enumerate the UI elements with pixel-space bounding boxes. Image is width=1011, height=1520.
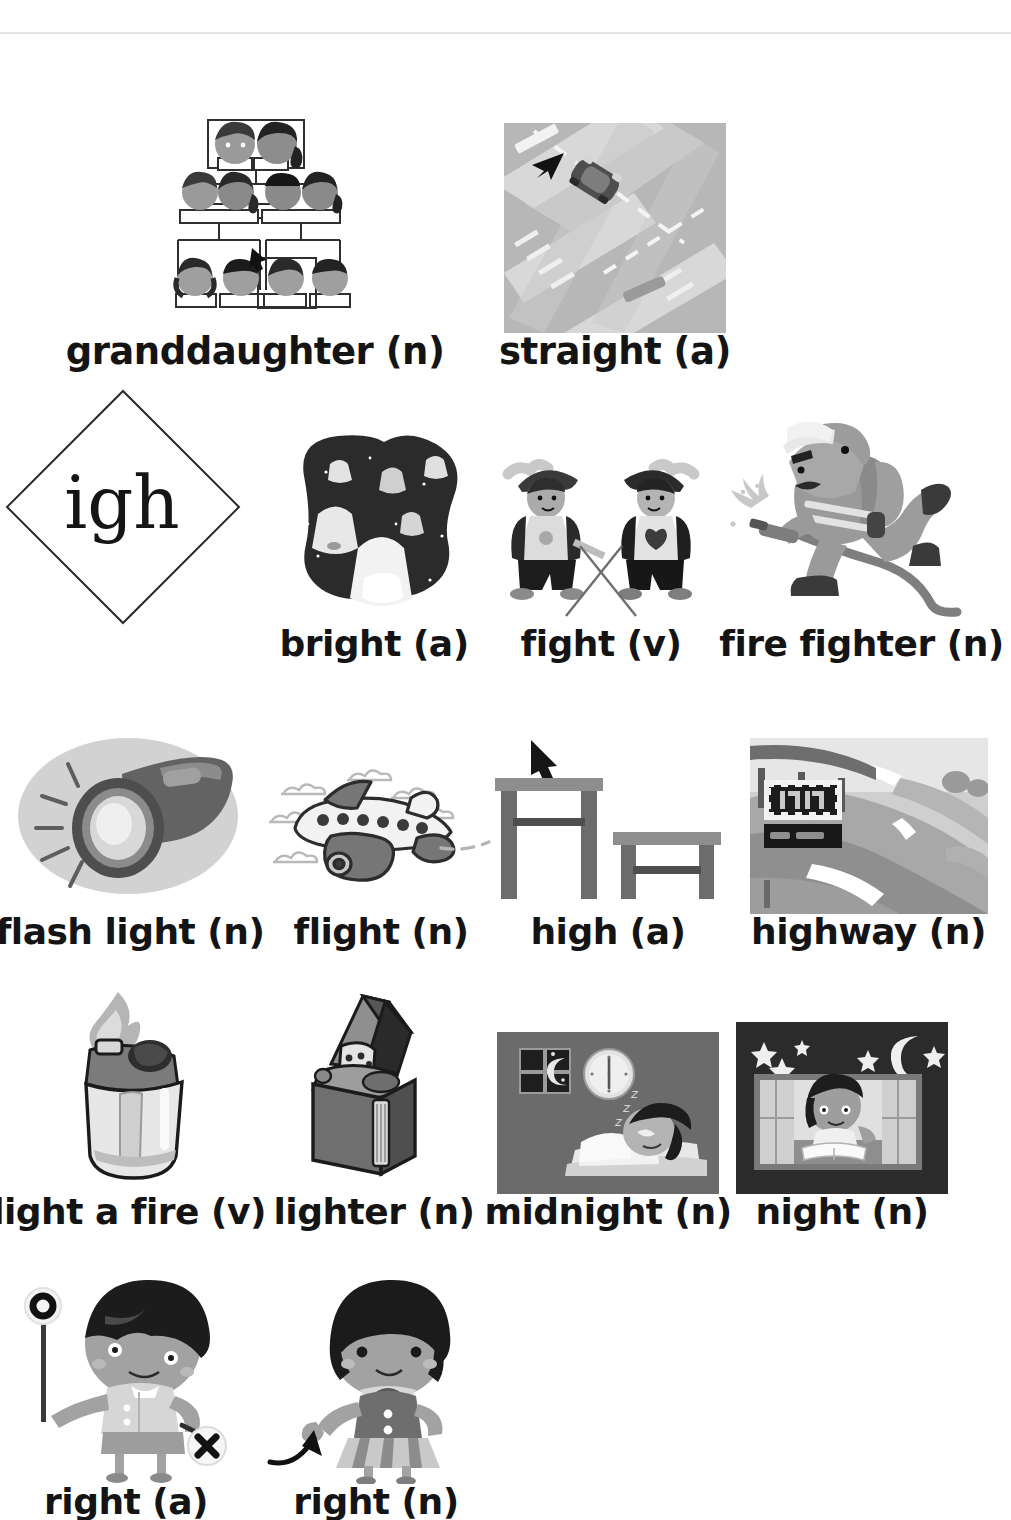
vocab-label-night: night (n) (755, 1194, 928, 1230)
girl-pointing-right-illustration (264, 1272, 488, 1484)
vocab-cell-bright: bright (a) (258, 400, 490, 662)
car-on-straight-road-photo (504, 123, 726, 333)
zippo-lighter-illustration (279, 988, 469, 1194)
boy-with-o-and-x-signs-illustration (11, 1272, 241, 1484)
svg-text:z: z (622, 1100, 631, 1115)
flashlight-illustration (10, 724, 250, 914)
vocab-cell-night: night (n) (726, 982, 958, 1230)
vocab-cell-flash-light: flash light (n) (0, 700, 260, 950)
svg-text:z: z (614, 1114, 623, 1129)
vocab-cell-right-a: right (a) (0, 1250, 252, 1520)
phoneme-text: igh (8, 392, 236, 620)
vocab-label-right-a: right (a) (44, 1484, 208, 1520)
two-swordsmen-fighting-illustration (496, 446, 706, 626)
svg-text:z: z (630, 1086, 639, 1101)
firefighter-with-hose-illustration (727, 416, 997, 626)
vocab-cell-high: high (a) (492, 710, 724, 950)
tall-and-short-table-illustration (495, 734, 721, 914)
vocab-label-bright: bright (a) (279, 626, 468, 662)
highway-with-sign-gantry-photo (750, 738, 988, 914)
worksheet-page: granddaughter (n) (0, 0, 1011, 1520)
vocab-label-fight: fight (v) (520, 626, 681, 662)
vocab-label-light-a-fire: light a fire (v) (0, 1194, 266, 1230)
page-top-rule (0, 32, 1011, 34)
vocab-cell-lighter: lighter (n) (258, 978, 490, 1230)
vocab-cell-right-n: right (n) (252, 1250, 500, 1520)
vocab-label-straight: straight (a) (499, 333, 731, 370)
vocab-cell-light-a-fire: light a fire (v) (0, 978, 258, 1230)
vocab-label-high: high (a) (530, 914, 685, 950)
vocab-cell-granddaughter: granddaughter (n) (70, 110, 440, 370)
vocab-cell-midnight: z z z midnight (n) (492, 988, 724, 1230)
vocab-label-flight: flight (n) (293, 914, 468, 950)
vocab-label-highway: highway (n) (751, 914, 986, 950)
vocab-cell-fight: fight (v) (490, 400, 712, 662)
boy-reading-at-window-night-illustration (736, 1022, 948, 1194)
vocab-cell-fire-fighter: fire fighter (n) (712, 400, 1011, 662)
vocab-label-flash-light: flash light (n) (0, 914, 264, 950)
phoneme-diamond: igh (8, 392, 236, 620)
airplane-in-clouds-illustration (265, 764, 497, 914)
family-tree-illustration (140, 118, 370, 333)
vocab-label-right-n: right (n) (293, 1484, 458, 1520)
sky-lanterns-night-illustration (274, 428, 474, 626)
vocab-label-granddaughter: granddaughter (n) (66, 333, 445, 370)
vocab-cell-straight: straight (a) (470, 110, 760, 370)
vocab-label-fire-fighter: fire fighter (n) (719, 626, 1004, 662)
vocab-cell-flight: flight (n) (262, 718, 500, 950)
child-sleeping-clock-illustration: z z z (497, 1032, 719, 1194)
vocab-label-lighter: lighter (n) (273, 1194, 474, 1230)
disposable-lighter-flame-illustration (34, 984, 224, 1194)
vocab-cell-highway: highway (n) (726, 708, 1011, 950)
vocab-label-midnight: midnight (n) (484, 1194, 731, 1230)
